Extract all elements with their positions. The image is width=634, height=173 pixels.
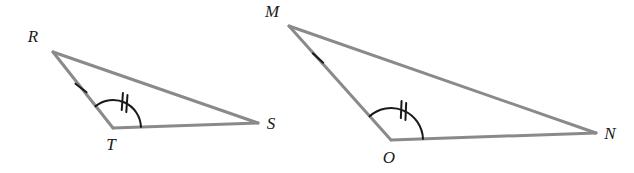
side-TS: [113, 123, 258, 128]
tick-single-side-RT-stroke-1: [75, 84, 86, 93]
vertex-R-label: R: [27, 27, 39, 46]
angle-arc-T: [95, 93, 141, 127]
geometry-canvas: RTSMON: [0, 0, 634, 173]
side-RS: [53, 52, 258, 123]
tick-single-side-RT: [75, 84, 86, 93]
vertex-O-label: O: [383, 148, 395, 167]
triangle-RTS: RTS: [27, 27, 276, 154]
vertex-M-label: M: [264, 2, 280, 21]
vertex-S-label: S: [267, 114, 276, 133]
vertex-N-label: N: [603, 124, 617, 143]
vertex-T-label: T: [106, 135, 117, 154]
geometry-figure: RTSMON: [0, 0, 634, 173]
triangle-MON: MON: [264, 2, 617, 167]
angle-arc-O: [370, 101, 423, 139]
tick-single-side-MO: [313, 53, 323, 62]
tick-single-side-MO-stroke-1: [313, 53, 323, 62]
